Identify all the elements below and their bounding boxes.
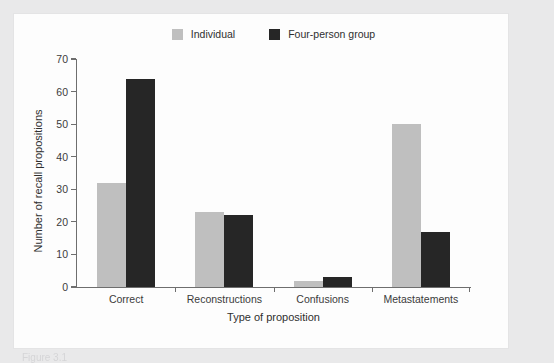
x-tick-label: Correct: [109, 293, 143, 305]
bar-group: [372, 59, 470, 287]
y-tick-mark: [71, 189, 76, 190]
y-tick-label: 0: [62, 281, 68, 293]
y-tick-mark: [71, 91, 76, 92]
chart-legend: Individual Four-person group: [77, 28, 470, 40]
y-tick-mark: [71, 124, 76, 125]
legend-item-individual: Individual: [172, 28, 235, 40]
bar: [195, 212, 224, 287]
bar: [323, 277, 352, 287]
figure-panel: Number of recall propositions Individual…: [14, 14, 508, 348]
bar-group: [175, 59, 273, 287]
bar: [421, 232, 450, 287]
y-tick-label: 60: [56, 86, 68, 98]
y-tick-label: 20: [56, 216, 68, 228]
x-tick-mark: [469, 287, 470, 292]
bar: [126, 79, 155, 287]
y-tick-label: 30: [56, 183, 68, 195]
legend-swatch-four-person-group: [269, 29, 280, 40]
x-tick-label: Reconstructions: [187, 293, 262, 305]
x-tick-mark: [175, 287, 176, 292]
legend-item-four-person-group: Four-person group: [269, 28, 375, 40]
y-tick-mark: [71, 156, 76, 157]
x-tick-mark: [274, 287, 275, 292]
x-axis-title: Type of proposition: [77, 311, 470, 323]
legend-label-four-person-group: Four-person group: [288, 28, 375, 40]
y-tick-label: 10: [56, 248, 68, 260]
bar: [392, 124, 421, 287]
bar-group: [77, 59, 175, 287]
figure-caption: Figure 3.1: [22, 352, 542, 363]
y-tick-label: 40: [56, 151, 68, 163]
y-tick-mark: [71, 286, 76, 287]
x-tick-label: Metastatements: [384, 293, 459, 305]
y-tick-label: 70: [56, 53, 68, 65]
x-tick-mark: [372, 287, 373, 292]
bar-group: [274, 59, 372, 287]
x-tick-label: Confusions: [296, 293, 349, 305]
y-tick-mark: [71, 254, 76, 255]
y-tick-mark: [71, 58, 76, 59]
y-axis-title: Number of recall propositions: [32, 109, 44, 252]
y-tick-mark: [71, 221, 76, 222]
y-tick-label: 50: [56, 118, 68, 130]
plot-area: 010203040506070 CorrectReconstructionsCo…: [77, 59, 470, 287]
bar: [294, 281, 323, 288]
bar: [97, 183, 126, 287]
legend-label-individual: Individual: [191, 28, 235, 40]
legend-swatch-individual: [172, 29, 183, 40]
bar: [224, 215, 253, 287]
